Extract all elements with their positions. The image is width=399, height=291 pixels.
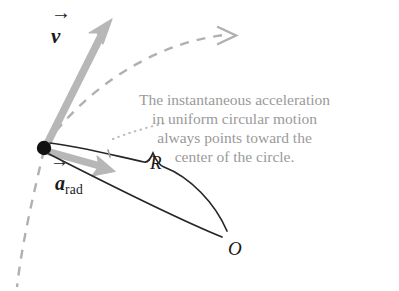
- annotation-line-2: in uniform circular motion: [139, 109, 330, 128]
- annotation-line-1: The instantaneous acceleration: [139, 90, 330, 109]
- annotation-line-4: center of the circle.: [139, 147, 330, 166]
- center-label: O: [228, 238, 242, 260]
- velocity-symbol: v: [51, 24, 60, 48]
- annotation-text: The instantaneous acceleration in unifor…: [139, 90, 330, 166]
- particle-dot: [37, 141, 51, 155]
- annotation-line-3: always points toward the: [139, 128, 330, 147]
- acceleration-vector-label: → arad: [55, 172, 83, 198]
- acceleration-subscript: rad: [65, 182, 83, 197]
- circular-path-lower-dashed: [17, 150, 44, 287]
- figure-canvas: → v → arad R O The instantaneous acceler…: [0, 0, 399, 291]
- velocity-vector-label: → v: [51, 24, 71, 49]
- brace-end-tick: [108, 150, 110, 157]
- acceleration-symbol: a: [55, 172, 65, 194]
